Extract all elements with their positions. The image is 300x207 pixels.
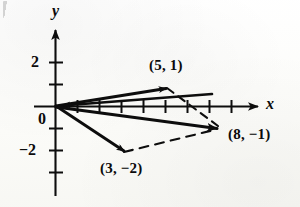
vector-to-5-1 <box>56 89 166 107</box>
vector-arrows <box>56 89 217 152</box>
y-tick-label-neg2: −2 <box>19 141 36 159</box>
x-axis-label: x <box>266 95 274 113</box>
point-label-3-neg2: (3, −2) <box>100 160 142 177</box>
point-label-5-1: (5, 1) <box>149 57 183 74</box>
origin-label: 0 <box>38 110 46 128</box>
figure-canvas: y x 0 2 −2 (5, 1) (8, −1) (3, −2) <box>0 0 300 207</box>
point-label-8-neg1: (8, −1) <box>228 126 270 143</box>
vector-to-8-neg1 <box>56 107 217 129</box>
dashed-segment-b-to-sum <box>124 130 214 152</box>
y-tick-label-2: 2 <box>31 53 39 71</box>
vector-diagram <box>0 0 300 207</box>
y-axis-label: y <box>52 2 59 20</box>
